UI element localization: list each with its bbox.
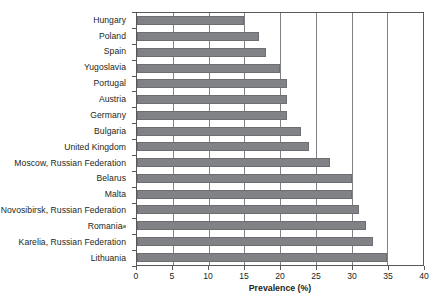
category-label: Belarus	[0, 171, 131, 187]
category-label: Yugoslavia	[0, 60, 131, 76]
bar	[137, 95, 287, 104]
bar	[137, 205, 359, 214]
bar	[137, 253, 387, 262]
bar	[137, 237, 373, 246]
bar-row	[137, 13, 423, 29]
category-axis-labels: HungaryPolandSpainYugoslaviaPortugalAust…	[0, 12, 131, 266]
category-label: Germany	[0, 107, 131, 123]
bar	[137, 221, 366, 230]
x-axis-title: Prevalence (%)	[136, 283, 424, 293]
bar	[137, 190, 352, 199]
bar-row	[137, 29, 423, 45]
value-tick-label: 35	[383, 270, 393, 282]
bar	[137, 79, 287, 88]
value-tick-label: 30	[347, 270, 357, 282]
bar-row	[137, 155, 423, 171]
value-tick-label: 40	[419, 270, 429, 282]
bar-row	[137, 92, 423, 108]
category-label: Hungary	[0, 12, 131, 28]
bar	[137, 16, 244, 25]
category-label: Spain	[0, 44, 131, 60]
category-label: Austria	[0, 91, 131, 107]
value-tick-label: 10	[203, 270, 213, 282]
bar-row	[137, 60, 423, 76]
category-label: United Kingdom	[0, 139, 131, 155]
bar-series	[137, 13, 423, 265]
bar-row	[137, 45, 423, 61]
bar-row	[137, 123, 423, 139]
value-tick-label: 25	[311, 270, 321, 282]
category-label: Moscow, Russian Federation	[0, 155, 131, 171]
value-tick-label: 15	[239, 270, 249, 282]
bar	[137, 174, 352, 183]
category-label: Malta	[0, 187, 131, 203]
bar-row	[137, 186, 423, 202]
category-label: Portugal	[0, 76, 131, 92]
plot-area	[136, 12, 424, 266]
bar	[137, 142, 309, 151]
category-label: Bulgaria	[0, 123, 131, 139]
bar-row	[137, 218, 423, 234]
category-label: Novosibirsk, Russian Federation	[0, 203, 131, 219]
bar	[137, 127, 301, 136]
value-tick-label: 0	[134, 270, 139, 282]
bar	[137, 48, 266, 57]
value-tick-label: 5	[170, 270, 175, 282]
bar	[137, 158, 330, 167]
prevalence-bar-chart: HungaryPolandSpainYugoslaviaPortugalAust…	[0, 0, 436, 301]
bar-row	[137, 234, 423, 250]
category-label: Karelia, Russian Federation	[0, 234, 131, 250]
bar	[137, 111, 287, 120]
bar-row	[137, 171, 423, 187]
category-label: Lithuania	[0, 250, 131, 266]
bar-row	[137, 249, 423, 265]
category-label: Romaniaa	[0, 218, 131, 234]
bar-row	[137, 108, 423, 124]
bar-row	[137, 76, 423, 92]
bar	[137, 32, 259, 41]
value-axis-tick-labels: 0510152025303540	[136, 270, 424, 282]
bar	[137, 64, 280, 73]
value-tick-label: 20	[275, 270, 285, 282]
bar-row	[137, 202, 423, 218]
category-label: Poland	[0, 28, 131, 44]
bar-row	[137, 139, 423, 155]
